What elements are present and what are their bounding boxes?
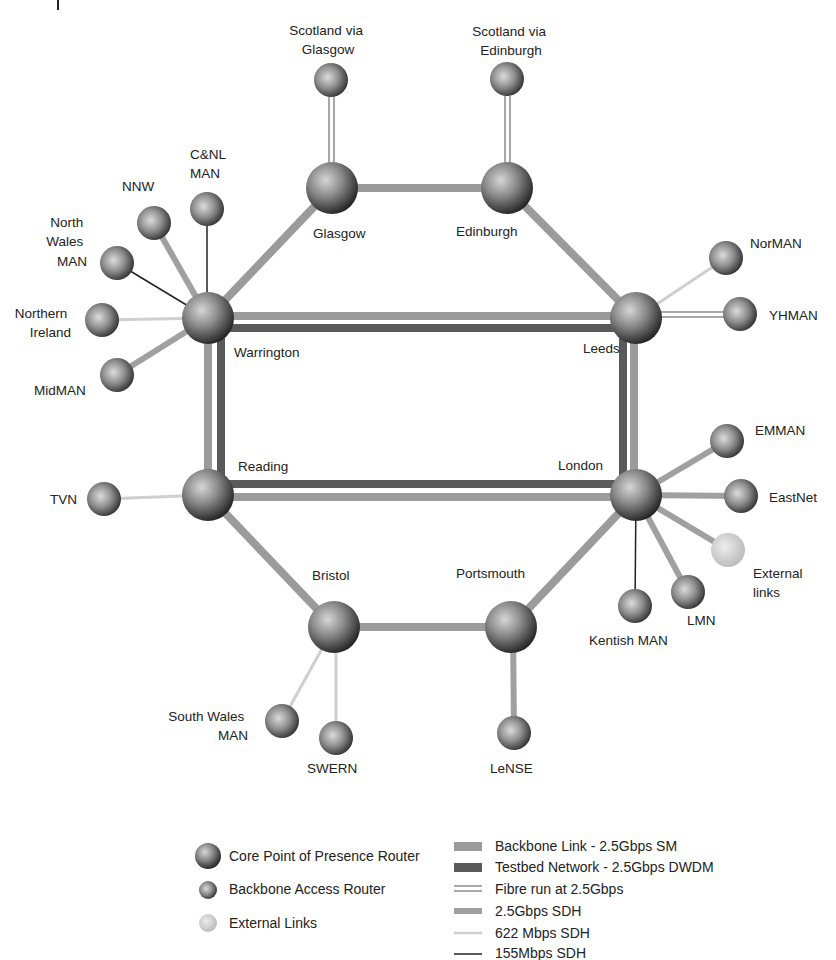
- label-norman: NorMAN: [750, 236, 802, 251]
- legend-sdh-155-label: 155Mbps SDH: [495, 945, 586, 960]
- core-router-edinburgh[interactable]: [481, 162, 533, 214]
- label-nnw: NNW: [122, 179, 154, 194]
- label-emman: EMMAN: [755, 423, 805, 438]
- labels-layer: Glasgow Edinburgh Warrington Leeds Readi…: [15, 23, 818, 776]
- label-tvn: TVN: [50, 492, 77, 507]
- access-router-lmn[interactable]: [671, 575, 705, 609]
- legend: Core Point of Presence Router Backbone A…: [195, 838, 714, 960]
- link-glasgow-scotland-fibre[interactable]: [329, 97, 334, 165]
- access-router-tvn[interactable]: [87, 482, 121, 516]
- label-external-links: External links: [753, 566, 806, 600]
- label-london: London: [558, 458, 603, 473]
- label-lmn: LMN: [687, 613, 716, 628]
- link-portsmouth-london[interactable]: [511, 495, 636, 627]
- legend-sdh-2-5-swatch: [454, 908, 482, 914]
- access-router-emman[interactable]: [710, 424, 744, 458]
- link-glasgow-warrington[interactable]: [208, 188, 332, 318]
- label-midman: MidMAN: [34, 383, 86, 398]
- label-scotland-edinburgh: Scotland via Edinburgh: [472, 24, 549, 58]
- legend-core-router-icon: [195, 843, 221, 869]
- core-router-glasgow[interactable]: [306, 162, 358, 214]
- legend-fibre-label: Fibre run at 2.5Gbps: [495, 881, 623, 897]
- access-router-scotland-edinburgh[interactable]: [490, 62, 524, 96]
- legend-access-router-label: Backbone Access Router: [229, 881, 386, 897]
- core-router-leeds[interactable]: [610, 292, 662, 344]
- label-north-wales-man: North Wales MAN: [46, 215, 87, 269]
- access-router-lense[interactable]: [497, 716, 531, 750]
- label-kentish-man: Kentish MAN: [589, 633, 668, 648]
- core-router-london[interactable]: [610, 469, 662, 521]
- link-leeds-yhman-fibre[interactable]: [660, 312, 724, 317]
- access-router-scotland-glasgow[interactable]: [314, 63, 348, 97]
- legend-core-router-label: Core Point of Presence Router: [229, 848, 420, 864]
- external-links-node[interactable]: [711, 533, 745, 567]
- label-eastnet: EastNet: [769, 490, 817, 505]
- network-topology-diagram: Glasgow Edinburgh Warrington Leeds Readi…: [0, 0, 836, 960]
- legend-external-links-label: External Links: [229, 915, 317, 931]
- access-router-kentish-man[interactable]: [618, 589, 652, 623]
- label-northern-ireland: Northern Ireland: [15, 306, 71, 340]
- legend-node-types: Core Point of Presence Router Backbone A…: [195, 843, 420, 932]
- access-router-swern[interactable]: [319, 721, 353, 755]
- legend-testbed-swatch: [454, 863, 482, 872]
- label-scotland-glasgow: Scotland via Glasgow: [289, 23, 366, 57]
- core-router-bristol[interactable]: [308, 601, 360, 653]
- access-router-eastnet[interactable]: [724, 479, 758, 513]
- label-cnl-man: C&NL MAN: [190, 147, 229, 181]
- core-router-reading[interactable]: [182, 469, 234, 521]
- legend-testbed-label: Testbed Network - 2.5Gbps DWDM: [495, 859, 714, 875]
- label-edinburgh: Edinburgh: [456, 224, 518, 239]
- access-router-northern-ireland[interactable]: [85, 303, 119, 337]
- core-router-warrington[interactable]: [182, 292, 234, 344]
- access-router-midman[interactable]: [100, 358, 134, 392]
- legend-backbone-swatch: [454, 842, 482, 851]
- label-swern: SWERN: [307, 761, 357, 776]
- access-router-yhman[interactable]: [723, 297, 757, 331]
- access-router-south-wales-man[interactable]: [265, 704, 299, 738]
- access-router-cnl-man[interactable]: [190, 192, 224, 226]
- label-yhman: YHMAN: [769, 308, 818, 323]
- label-reading: Reading: [238, 459, 288, 474]
- legend-link-types: Backbone Link - 2.5Gbps SM Testbed Netwo…: [454, 838, 714, 960]
- access-router-north-wales-man[interactable]: [100, 246, 134, 280]
- link-edinburgh-scotland-fibre[interactable]: [505, 96, 510, 165]
- label-lense: LeNSE: [490, 761, 533, 776]
- legend-access-router-icon: [199, 881, 217, 899]
- legend-sdh-2-5-label: 2.5Gbps SDH: [495, 903, 581, 919]
- nodes-layer: [85, 62, 758, 755]
- access-router-nnw[interactable]: [137, 206, 171, 240]
- core-router-portsmouth[interactable]: [485, 601, 537, 653]
- label-bristol: Bristol: [312, 568, 350, 583]
- legend-external-links-icon: [199, 914, 217, 932]
- link-reading-bristol[interactable]: [208, 495, 334, 627]
- link-edinburgh-leeds[interactable]: [507, 188, 636, 318]
- label-portsmouth: Portsmouth: [456, 566, 525, 581]
- label-warrington: Warrington: [234, 345, 300, 360]
- legend-sdh-622-label: 622 Mbps SDH: [495, 925, 590, 941]
- label-glasgow: Glasgow: [313, 226, 366, 241]
- legend-backbone-label: Backbone Link - 2.5Gbps SM: [495, 838, 677, 854]
- label-leeds: Leeds: [583, 341, 620, 356]
- label-south-wales-man: South Wales MAN: [168, 709, 248, 743]
- access-router-norman[interactable]: [709, 241, 743, 275]
